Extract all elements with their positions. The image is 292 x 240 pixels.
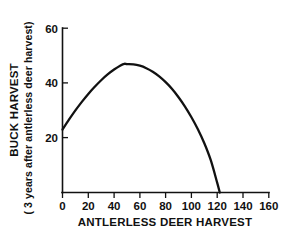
x-axis-ticks <box>63 193 269 199</box>
chart-figure: 60 40 20 0 20 40 60 80 100 120 140 160 <box>0 0 292 240</box>
x-tick-label-40: 40 <box>108 200 121 212</box>
x-tick-label-80: 80 <box>159 200 172 212</box>
data-series-line <box>63 64 220 193</box>
x-tick-label-60: 60 <box>134 200 147 212</box>
y-tick-label-20: 20 <box>45 132 58 144</box>
chart-plot-area: 60 40 20 0 20 40 60 80 100 120 140 160 <box>0 0 292 240</box>
y-axis-title-primary: BUCK HARVEST <box>8 63 20 157</box>
y-axis-tick-labels: 60 40 20 <box>45 23 58 144</box>
y-axis-title-secondary: ( 3 years after antlerless deer harvest) <box>22 21 34 214</box>
x-tick-label-160: 160 <box>259 200 278 212</box>
x-tick-label-120: 120 <box>208 200 227 212</box>
y-tick-label-40: 40 <box>45 77 58 89</box>
x-tick-label-140: 140 <box>233 200 252 212</box>
x-tick-label-20: 20 <box>82 200 95 212</box>
x-tick-label-100: 100 <box>182 200 201 212</box>
x-axis-tick-labels: 0 20 40 60 80 100 120 140 160 <box>59 200 278 212</box>
x-axis-title: ANTLERLESS DEER HARVEST <box>78 216 252 228</box>
y-tick-label-60: 60 <box>45 23 58 35</box>
x-tick-label-0: 0 <box>59 200 65 212</box>
